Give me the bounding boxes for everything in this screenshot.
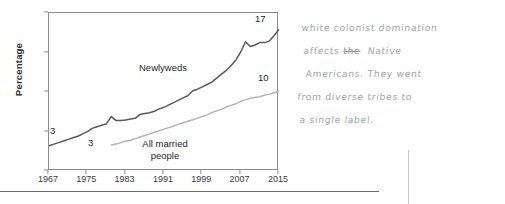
handwriting-line-4: from diverse tribes to [296,91,505,114]
handwritten-annotation: white colonist domination affects the Na… [297,22,505,137]
x-tick-label-1975: 1975 [66,174,106,184]
newlyweds-end-label: 17 [255,13,266,24]
handwriting-struck-word: the [343,45,361,56]
handwriting-line-2-before: affects [303,45,340,56]
x-tick-label-1999: 1999 [181,174,221,184]
handwriting-line-2: affects the Native [302,45,505,68]
newlyweds-series-label: Newlyweds [139,62,187,74]
handwriting-line-1: white colonist domination [300,22,505,45]
x-tick-label-2007: 2007 [220,174,260,184]
screenshot-root: Percentage 20 15 10 5 0 3 17 3 10 Newlyw… [0,0,505,204]
x-tick-label-1983: 1983 [105,174,145,184]
newlyweds-start-label: 3 [50,125,55,136]
handwriting-line-2-after: Native [367,45,402,56]
x-tick-label-1967: 1967 [28,174,68,184]
handwriting-line-3: Americans. They went [304,68,505,91]
all-married-start-label: 3 [88,137,93,148]
chart-figure: Percentage 20 15 10 5 0 3 17 3 10 Newlyw… [0,0,300,200]
x-tick-label-1991: 1991 [143,174,183,184]
pen-vertical-stroke [408,150,409,204]
handwriting-line-5: a single label. [298,114,505,137]
newlyweds-line [49,29,279,146]
all-married-end-label: 10 [258,72,269,83]
x-tick-label-2015: 2015 [258,174,298,184]
page-horizontal-rule [0,191,379,192]
all-married-series-label: All married people [128,138,202,162]
y-axis-label: Percentage [13,25,24,115]
